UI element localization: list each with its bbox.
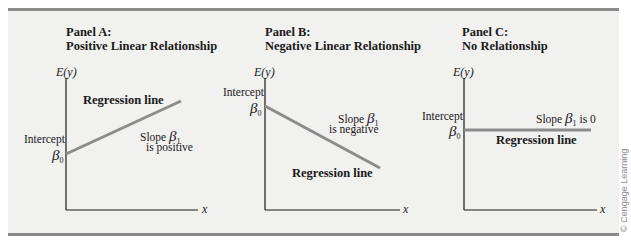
beta-subscript: 0 — [456, 132, 460, 141]
panel-b-title-line1: Panel B: — [265, 26, 310, 39]
panel-a-intercept-label: Intercept — [24, 134, 65, 146]
panel-b-intercept-symbol: β0 — [250, 100, 261, 118]
panel-c-y-axis-label: E(y) — [453, 66, 474, 78]
panel-c-slope-label: Slope β1 is 0 — [536, 111, 596, 128]
beta-subscript: 0 — [59, 156, 63, 165]
slope-suffix: is 0 — [577, 113, 596, 125]
panel-c-x-axis-label: x — [600, 203, 605, 215]
panel-b-slope-description: is negative — [329, 124, 379, 136]
panel-a-title-line2: Positive Linear Relationship — [66, 40, 217, 53]
panel-b-regression-label: Regression line — [292, 167, 373, 180]
panel-b-title-line2: Negative Linear Relationship — [265, 40, 421, 53]
panel-c-title-line2: No Relationship — [462, 40, 548, 53]
panel-a-title-line1: Panel A: — [66, 26, 111, 39]
panel-b-y-axis-label: E(y) — [254, 66, 275, 78]
copyright-watermark: © Cengage Learning — [619, 149, 629, 232]
slope-prefix: Slope — [536, 113, 565, 125]
panel-b-x-axis-label: x — [403, 203, 408, 215]
panel-a-regression-label: Regression line — [83, 94, 164, 107]
panel-c-intercept-label: Intercept — [422, 111, 463, 123]
beta-subscript: 0 — [257, 109, 261, 118]
beta-symbol: β — [565, 110, 572, 126]
panel-a-slope-description: is positive — [146, 142, 193, 154]
panel-b-intercept-label: Intercept — [223, 87, 264, 99]
panel-c-regression-label: Regression line — [496, 134, 577, 147]
panel-a-intercept-symbol: β0 — [52, 147, 63, 165]
panel-a-y-axis-label: E(y) — [56, 66, 77, 78]
panel-c-title-line1: Panel C: — [462, 26, 508, 39]
panel-c-intercept-symbol: β0 — [449, 123, 460, 141]
panel-a-x-axis-label: x — [202, 203, 207, 215]
